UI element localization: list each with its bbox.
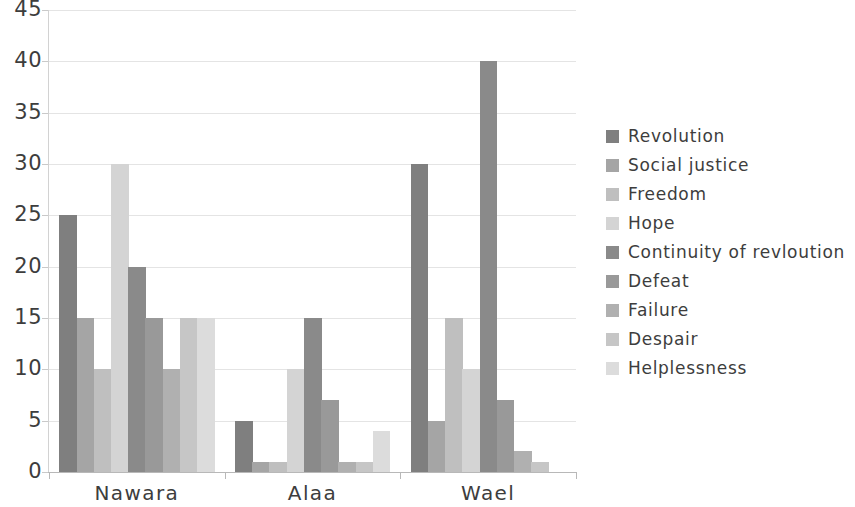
legend-label: Despair: [628, 330, 698, 349]
x-tick-mark: [225, 472, 226, 479]
x-tick-mark: [400, 472, 401, 479]
legend-label: Failure: [628, 301, 689, 320]
bar: [497, 400, 515, 472]
bar: [462, 369, 480, 472]
x-tick-mark: [576, 472, 577, 479]
y-tick-label: 40: [2, 50, 42, 71]
bar: [145, 318, 163, 472]
y-tick-label: 45: [2, 0, 42, 20]
legend-item: Helplessness: [606, 354, 854, 383]
legend: RevolutionSocial justiceFreedomHopeConti…: [606, 122, 854, 383]
bar: [59, 215, 77, 472]
legend-item: Freedom: [606, 180, 854, 209]
legend-swatch-icon: [606, 246, 619, 259]
bar: [373, 431, 391, 472]
legend-item: Continuity of revloution: [606, 238, 854, 267]
bar: [163, 369, 181, 472]
y-axis-labels: 051015202530354045: [0, 0, 42, 507]
bar: [77, 318, 95, 472]
x-axis-line: [48, 472, 576, 473]
y-tick-label: 15: [2, 307, 42, 328]
x-tick-mark: [49, 472, 50, 479]
bar: [514, 451, 532, 472]
bar: [269, 462, 287, 472]
bar-chart: 051015202530354045 NawaraAlaaWael Revolu…: [0, 0, 855, 507]
legend-label: Social justice: [628, 156, 749, 175]
legend-label: Defeat: [628, 272, 689, 291]
bar: [128, 267, 146, 472]
y-tick-label: 10: [2, 358, 42, 379]
legend-item: Revolution: [606, 122, 854, 151]
legend-label: Freedom: [628, 185, 707, 204]
legend-label: Revolution: [628, 127, 725, 146]
y-tick-label: 20: [2, 256, 42, 277]
legend-swatch-icon: [606, 159, 619, 172]
y-tick-label: 25: [2, 204, 42, 225]
legend-label: Helplessness: [628, 359, 747, 378]
x-category-label: Alaa: [225, 482, 401, 504]
legend-swatch-icon: [606, 362, 619, 375]
legend-swatch-icon: [606, 188, 619, 201]
plot-area: [49, 10, 576, 472]
bar: [111, 164, 129, 472]
bar: [445, 318, 463, 472]
legend-swatch-icon: [606, 130, 619, 143]
legend-swatch-icon: [606, 304, 619, 317]
legend-label: Hope: [628, 214, 675, 233]
bar: [428, 421, 446, 472]
bar: [235, 421, 253, 472]
x-category-label: Wael: [400, 482, 576, 504]
y-tick-label: 30: [2, 153, 42, 174]
legend-item: Hope: [606, 209, 854, 238]
bar: [411, 164, 429, 472]
y-tick-label: 5: [2, 410, 42, 431]
legend-item: Despair: [606, 325, 854, 354]
legend-swatch-icon: [606, 275, 619, 288]
y-tick-label: 0: [2, 461, 42, 482]
bar: [480, 61, 498, 472]
legend-swatch-icon: [606, 217, 619, 230]
bar: [304, 318, 322, 472]
bar: [321, 400, 339, 472]
bar: [356, 462, 374, 472]
legend-swatch-icon: [606, 333, 619, 346]
bar: [94, 369, 112, 472]
bar: [287, 369, 305, 472]
bar: [197, 318, 215, 472]
legend-item: Social justice: [606, 151, 854, 180]
legend-item: Failure: [606, 296, 854, 325]
bar: [531, 462, 549, 472]
legend-item: Defeat: [606, 267, 854, 296]
bar: [252, 462, 270, 472]
x-category-label: Nawara: [49, 482, 225, 504]
bar: [338, 462, 356, 472]
y-tick-label: 35: [2, 102, 42, 123]
bar: [180, 318, 198, 472]
legend-label: Continuity of revloution: [628, 243, 845, 262]
